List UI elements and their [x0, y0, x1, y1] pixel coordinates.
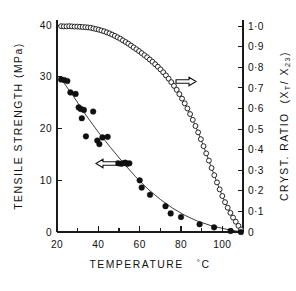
crystallinity-point	[180, 96, 185, 101]
crystallinity-point	[193, 124, 198, 129]
crystallinity-point	[177, 92, 182, 97]
tensile-point	[100, 135, 106, 141]
crystallinity-point	[217, 187, 222, 192]
tensile-point	[238, 229, 244, 235]
tensile-point	[126, 160, 132, 166]
left-tick-label: 0	[46, 227, 52, 238]
right-tick-label: 0·9	[248, 41, 264, 52]
crystallinity-point	[204, 151, 209, 156]
crystallinity-point	[198, 137, 203, 142]
x-tick-label: 40	[92, 239, 104, 250]
tensile-point	[68, 90, 74, 96]
right-axis-title: CRYST. RATIO (XT/ X23)	[279, 51, 292, 201]
axis-frame	[57, 20, 243, 232]
x-tick-label: 60	[134, 239, 146, 250]
svg-text:TENSILE STRENGTH (MPa): TENSILE STRENGTH (MPa)	[13, 42, 24, 210]
left-tick-label: 30	[40, 71, 52, 82]
tensile-point	[105, 134, 111, 140]
svg-text:TEMPERATURE °C: TEMPERATURE °C	[89, 258, 210, 270]
crystallinity-line	[61, 26, 241, 229]
x-tick-label: 80	[175, 239, 187, 250]
left-axis-tick-labels: 010203040	[40, 20, 52, 238]
crystallinity-point	[201, 144, 206, 149]
tensile-point	[147, 192, 153, 198]
crystallinity-point	[215, 180, 220, 185]
tensile-data-points	[58, 77, 243, 235]
tensile-point	[90, 109, 96, 115]
right-axis-title-paren-open: (X	[279, 90, 290, 103]
crystallinity-point	[188, 112, 193, 117]
crystallinity-data-points	[59, 24, 244, 232]
right-tick-label: 0	[248, 227, 254, 238]
tensile-point	[97, 141, 103, 147]
tensile-fit-line	[61, 79, 241, 232]
tensile-point	[137, 177, 143, 183]
crystallinity-point	[185, 106, 190, 111]
tensile-point	[163, 203, 169, 209]
x-tick-label: 100	[213, 239, 231, 250]
x-axis-unit-c: C	[202, 259, 211, 270]
right-axis-title-paren-close: )	[279, 51, 290, 56]
x-tick-label: 20	[51, 239, 63, 250]
crystallinity-point	[190, 117, 195, 122]
svg-text:CRYST. RATIO (XT/ X23): CRYST. RATIO (XT/ X23)	[279, 51, 292, 201]
crystallinity-point	[182, 101, 187, 106]
tensile-fit-curve	[61, 79, 241, 232]
right-axis-title-slash: / X	[279, 67, 290, 84]
tensile-point	[228, 228, 234, 234]
right-tick-label: 0·6	[248, 103, 264, 114]
tensile-point	[73, 91, 79, 97]
bottom-axis-tick-labels: 20406080100	[51, 239, 232, 250]
right-tick-label: 0·5	[248, 124, 264, 135]
right-tick-label: 0·8	[248, 62, 264, 73]
tensile-point	[211, 225, 217, 231]
crystallinity-point	[225, 205, 230, 210]
tensile-point	[178, 214, 184, 220]
left-tick-label: 20	[40, 123, 52, 134]
crystallinity-point	[228, 210, 233, 215]
crystallinity-point	[212, 173, 217, 178]
crystallinity-point	[209, 166, 214, 171]
left-axis-ticks	[57, 25, 62, 232]
tensile-point	[197, 221, 203, 227]
left-axis-title: TENSILE STRENGTH (MPa)	[13, 42, 24, 210]
tensile-point	[64, 78, 70, 84]
x-axis-title-main: TEMPERATURE	[89, 259, 183, 270]
crystallinity-point	[220, 194, 225, 199]
crystallinity-point	[196, 130, 201, 135]
crystallinity-point	[206, 158, 211, 163]
left-tick-label: 40	[40, 20, 52, 31]
right-tick-label: 0·3	[248, 165, 264, 176]
right-tick-label: 0·4	[248, 144, 264, 155]
right-tick-label: 0·2	[248, 185, 264, 196]
right-axis-tick-labels: 00·10·20·30·40·50·60·70·80·91·0	[248, 21, 264, 238]
left-axis-title-text: TENSILE STRENGTH (MPa)	[13, 42, 24, 210]
right-axis-title-sub-23: 23	[283, 56, 292, 67]
right-pointing-arrow-annotation	[176, 77, 196, 86]
figure-container: 010203040 00·10·20·30·40·50·60·70·80·91·…	[0, 0, 296, 291]
left-pointing-arrow-annotation	[96, 159, 116, 168]
right-tick-label: 0·1	[248, 206, 264, 217]
crystallinity-point	[223, 200, 228, 205]
right-axis-ticks	[238, 26, 243, 232]
chart-canvas: 010203040 00·10·20·30·40·50·60·70·80·91·…	[0, 0, 296, 291]
right-axis-title-main: CRYST. RATIO	[279, 112, 290, 201]
tensile-point	[81, 107, 87, 113]
left-tick-label: 10	[40, 175, 52, 186]
crystallinity-fit-curve	[61, 26, 241, 229]
tensile-point	[79, 115, 85, 121]
tensile-point	[139, 185, 145, 191]
right-tick-label: 0·7	[248, 83, 264, 94]
tensile-point	[83, 133, 89, 139]
right-tick-label: 1·0	[248, 21, 264, 32]
tensile-point	[168, 211, 174, 217]
x-axis-title: TEMPERATURE °C	[89, 258, 210, 270]
